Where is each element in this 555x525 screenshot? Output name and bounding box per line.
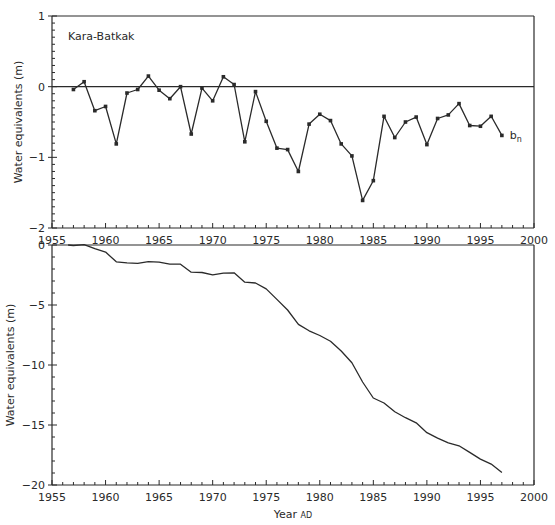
data-point [243, 140, 247, 144]
data-point [264, 119, 268, 123]
data-point [104, 105, 108, 109]
data-point [350, 154, 354, 158]
x-tick-label: 1995 [466, 491, 494, 504]
data-point [404, 120, 408, 124]
data-point [179, 85, 183, 89]
data-point [489, 115, 493, 119]
chart-canvas: 1955196019651970197519801985199019952000… [0, 0, 555, 525]
series-label: bn [510, 129, 522, 144]
y-tick-label: −20 [22, 479, 45, 492]
data-point [222, 75, 226, 79]
data-point [500, 134, 504, 138]
y-tick-label: 0 [38, 239, 45, 252]
x-axis-label: Year AD [273, 508, 312, 521]
data-point [211, 99, 215, 103]
data-point [468, 124, 472, 128]
data-point [125, 91, 129, 95]
series-line [68, 245, 502, 473]
data-point [286, 148, 290, 152]
data-point [275, 146, 279, 150]
data-point [232, 83, 236, 87]
site-annotation: Kara-Batkak [68, 30, 135, 43]
data-point [82, 80, 86, 84]
y-axis-label: Water equivalents (m) [12, 61, 25, 184]
y-tick-label: −10 [22, 359, 45, 372]
y-tick-label: 0 [38, 81, 45, 94]
x-tick-label: 1960 [92, 491, 120, 504]
data-point [414, 115, 418, 119]
x-tick-label: 1990 [413, 491, 441, 504]
x-tick-label: 1980 [306, 491, 334, 504]
y-tick-label: −2 [29, 222, 45, 235]
data-point [479, 124, 483, 128]
y-axis-label: Water equivalents (m) [4, 304, 17, 427]
x-tick-label: 1975 [252, 491, 280, 504]
data-point [200, 86, 204, 90]
data-point [361, 199, 365, 203]
y-tick-label: −5 [29, 299, 45, 312]
data-point [157, 88, 161, 92]
data-point [189, 132, 193, 136]
annual-balance-chart: 1955196019651970197519801985199019952000… [12, 10, 548, 247]
data-point [147, 74, 151, 78]
y-tick-label: −15 [22, 419, 45, 432]
data-point [372, 179, 376, 183]
data-point [425, 143, 429, 147]
data-point [72, 88, 76, 92]
data-point [329, 119, 333, 123]
data-point [436, 117, 440, 121]
data-point [382, 115, 386, 119]
data-point [307, 122, 311, 126]
data-point [393, 136, 397, 140]
data-point [318, 112, 322, 116]
data-point [457, 102, 461, 106]
x-tick-label: 2000 [520, 491, 548, 504]
x-tick-label: 1965 [145, 491, 173, 504]
cumulative-balance-chart: 1955196019651970197519801985199019952000… [4, 239, 548, 521]
x-tick-label: 1955 [38, 491, 66, 504]
y-tick-label: 1 [38, 10, 45, 23]
x-tick-label: 1970 [199, 491, 227, 504]
data-point [447, 113, 451, 117]
figure: 1955196019651970197519801985199019952000… [0, 0, 555, 525]
data-point [339, 142, 343, 146]
data-point [136, 88, 140, 92]
data-point [168, 97, 172, 101]
data-point [93, 109, 97, 113]
series-line [73, 76, 502, 200]
data-point [254, 90, 258, 94]
data-point [114, 142, 118, 146]
data-point [297, 170, 301, 174]
y-tick-label: −1 [29, 151, 45, 164]
x-tick-label: 1985 [359, 491, 387, 504]
